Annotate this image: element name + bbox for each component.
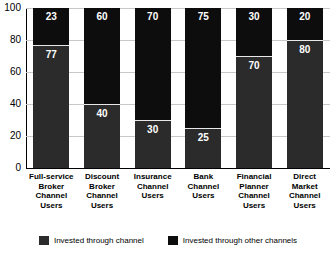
bar-segment-channel[interactable]: 30 — [135, 120, 171, 168]
bar-value-label: 77 — [33, 49, 69, 60]
category-label-line: Insurance — [128, 172, 177, 182]
category-label-line: Market — [280, 182, 329, 192]
chart-legend: Invested through channelInvested through… — [0, 236, 336, 245]
bar-stack[interactable]: 6040 — [84, 8, 120, 168]
category-label-line: Channel — [280, 191, 329, 201]
category-label-line: Channel — [27, 191, 76, 201]
category-label-line: Users — [78, 201, 127, 211]
y-tick-label-40: 40 — [10, 99, 21, 109]
category-label-line: Users — [27, 201, 76, 211]
bar-stack[interactable]: 7030 — [135, 8, 171, 168]
y-tick-label-60: 60 — [10, 67, 21, 77]
legend-label: Invested through channel — [54, 236, 144, 245]
legend-swatch-icon — [168, 236, 178, 245]
bar-value-label: 25 — [185, 132, 221, 143]
bar-segment-channel[interactable]: 25 — [185, 128, 221, 168]
bar-segment-channel[interactable]: 40 — [84, 104, 120, 168]
category-label-line: Planner — [230, 182, 279, 192]
bar-stack[interactable]: 7525 — [185, 8, 221, 168]
bars-layer: 237760407030752530702080 — [26, 8, 330, 168]
category-label-line: Channel — [230, 191, 279, 201]
bar-slot: 7030 — [127, 8, 178, 168]
legend-swatch-icon — [39, 236, 49, 245]
category-label-line: Direct — [280, 172, 329, 182]
bar-segment-other-channels[interactable]: 20 — [287, 8, 323, 40]
category-label: FinancialPlannerChannelUsers — [229, 172, 280, 210]
category-label-line: Financial — [230, 172, 279, 182]
x-axis-category-labels: Full-serviceBrokerChannelUsersDiscountBr… — [26, 172, 330, 210]
y-tick-label-20: 20 — [10, 131, 21, 141]
legend-label: Invested through other channels — [183, 236, 297, 245]
y-tick-label-0: 0 — [15, 163, 21, 173]
bar-value-label: 20 — [287, 11, 323, 22]
plot-area: 237760407030752530702080 — [26, 8, 330, 168]
stacked-bar-chart: 100806040200 237760407030752530702080 Fu… — [0, 0, 336, 260]
category-label: DirectMarketChannelUsers — [279, 172, 330, 210]
category-label-line: Users — [280, 201, 329, 211]
bar-stack[interactable]: 3070 — [236, 8, 272, 168]
legend-item[interactable]: Invested through other channels — [168, 236, 297, 245]
bar-segment-other-channels[interactable]: 23 — [33, 8, 69, 45]
y-axis-tick-labels: 100806040200 — [0, 8, 24, 168]
bar-stack[interactable]: 2377 — [33, 8, 69, 168]
bar-segment-other-channels[interactable]: 60 — [84, 8, 120, 104]
bar-slot: 2080 — [279, 8, 330, 168]
bar-value-label: 75 — [185, 11, 221, 22]
bar-slot: 6040 — [77, 8, 128, 168]
category-label-line: Users — [230, 201, 279, 211]
bar-segment-other-channels[interactable]: 75 — [185, 8, 221, 128]
bar-value-label: 70 — [135, 11, 171, 22]
bar-value-label: 30 — [236, 11, 272, 22]
category-label-line: Users — [128, 191, 177, 201]
bar-value-label: 70 — [236, 60, 272, 71]
category-label-line: Broker — [78, 182, 127, 192]
y-tick-label-80: 80 — [10, 35, 21, 45]
category-label: InsuranceChannelUsers — [127, 172, 178, 210]
legend-item[interactable]: Invested through channel — [39, 236, 144, 245]
y-tick-label-100: 100 — [4, 3, 21, 13]
bar-segment-other-channels[interactable]: 30 — [236, 8, 272, 56]
category-label: Full-serviceBrokerChannelUsers — [26, 172, 77, 210]
category-label-line: Bank — [179, 172, 228, 182]
bar-segment-other-channels[interactable]: 70 — [135, 8, 171, 120]
bar-segment-channel[interactable]: 77 — [33, 45, 69, 168]
category-label-line: Users — [179, 191, 228, 201]
category-label-line: Channel — [179, 182, 228, 192]
category-label: BankChannelUsers — [178, 172, 229, 210]
bar-value-label: 30 — [135, 124, 171, 135]
bar-segment-channel[interactable]: 70 — [236, 56, 272, 168]
bar-slot: 2377 — [26, 8, 77, 168]
category-label-line: Full-service — [27, 172, 76, 182]
bar-stack[interactable]: 2080 — [287, 8, 323, 168]
category-label-line: Broker — [27, 182, 76, 192]
category-label-line: Discount — [78, 172, 127, 182]
bar-slot: 3070 — [229, 8, 280, 168]
gridline-0 — [26, 168, 330, 169]
bar-value-label: 23 — [33, 11, 69, 22]
bar-segment-channel[interactable]: 80 — [287, 40, 323, 168]
bar-value-label: 80 — [287, 44, 323, 55]
category-label-line: Channel — [128, 182, 177, 192]
bar-value-label: 40 — [84, 108, 120, 119]
bar-slot: 7525 — [178, 8, 229, 168]
category-label-line: Channel — [78, 191, 127, 201]
category-label: DiscountBrokerChannelUsers — [77, 172, 128, 210]
bar-value-label: 60 — [84, 11, 120, 22]
